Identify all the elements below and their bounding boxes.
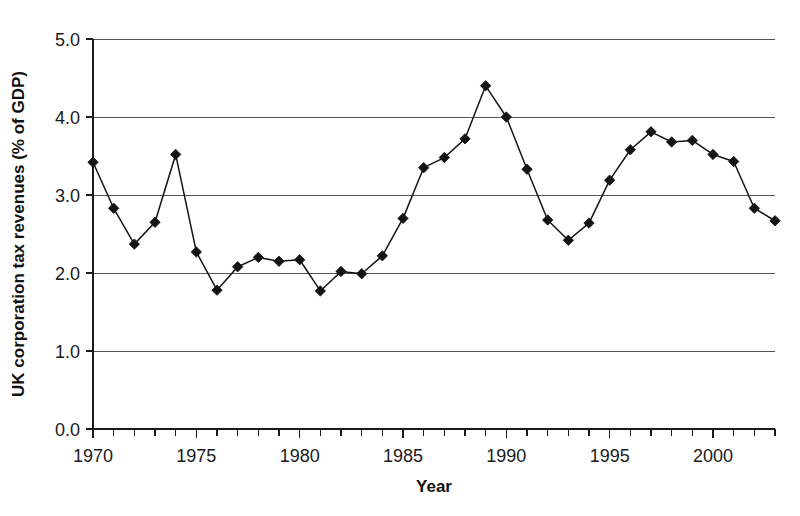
y-axis-title: UK corporation tax revenues (% of GDP) [9,71,28,397]
x-tick-label-1980: 1980 [280,446,320,466]
x-tick-label-1990: 1990 [486,446,526,466]
y-tick-label-2: 2.0 [55,264,80,284]
y-tick-label-0: 0.0 [55,420,80,440]
y-tick-label-1: 1.0 [55,342,80,362]
y-tick-label-4: 4.0 [55,108,80,128]
chart-figure: 0.01.02.03.04.05.0 197019751980198519901… [0,0,800,516]
x-tick-label-1975: 1975 [176,446,216,466]
x-tick-label-1995: 1995 [590,446,630,466]
y-tick-label-5: 5.0 [55,30,80,50]
x-tick-label-2000: 2000 [693,446,733,466]
y-tick-label-3: 3.0 [55,186,80,206]
line-chart: 0.01.02.03.04.05.0 197019751980198519901… [0,0,800,516]
x-tick-label-1970: 1970 [73,446,113,466]
x-tick-label-1985: 1985 [383,446,423,466]
chart-background [0,0,800,516]
x-axis-title: Year [416,477,452,496]
